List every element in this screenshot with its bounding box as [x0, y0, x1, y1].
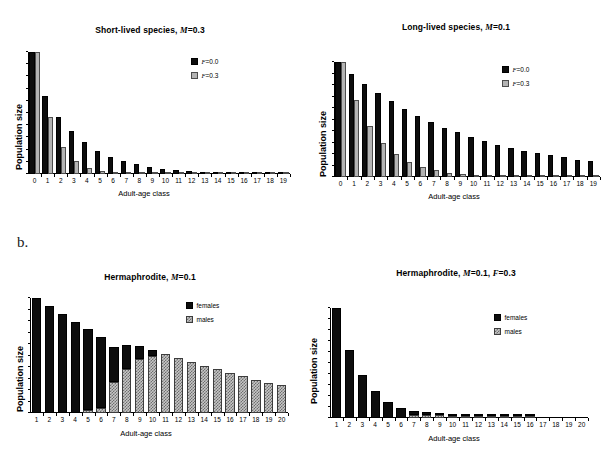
x-tick-label: 4: [80, 177, 93, 184]
bar-pair: [41, 52, 54, 174]
x-tick-label: 15: [211, 416, 224, 423]
x-tick-label: 14: [520, 180, 533, 187]
x-tick-label: 15: [533, 180, 546, 187]
stacked-bar: [135, 298, 144, 413]
bar-segment-females: [58, 314, 67, 413]
bar-segment-females: [135, 346, 144, 359]
x-tick-label: 10: [467, 180, 480, 187]
x-tick-label: 20: [575, 421, 588, 428]
bar-pair: [133, 52, 146, 174]
legend-swatch-hatch: [494, 328, 501, 335]
bar-pair: [334, 62, 347, 177]
x-axis-label: Adult-age class: [302, 192, 606, 201]
stacked-bar: [474, 308, 483, 418]
bar-f03: [540, 175, 545, 177]
stacked-bar: [564, 308, 573, 418]
x-tick-label: 1: [330, 421, 343, 428]
bar-f03: [447, 173, 452, 177]
bar-f03: [514, 175, 519, 177]
y-axis-tick: [328, 362, 331, 363]
bar-pair: [54, 52, 67, 174]
bar-segment-males: [83, 410, 92, 413]
bar-f03: [567, 175, 572, 177]
bar-f03: [553, 175, 558, 177]
bar-f03: [527, 175, 532, 177]
stacked-bar: [251, 298, 260, 413]
bar-pair: [264, 52, 277, 174]
bar-pair: [93, 52, 106, 174]
x-tick-label: 10: [446, 421, 459, 428]
y-axis-tick: [328, 329, 331, 330]
legend-label-text: =0.3: [205, 72, 218, 79]
bar-f00: [548, 155, 553, 177]
bar-f03: [139, 172, 144, 174]
chart-legend: femalesmales: [186, 302, 219, 330]
bar-segment-females: [122, 345, 131, 369]
x-tick-label: 10: [146, 416, 159, 423]
bar-f00: [495, 145, 500, 177]
bar-slot: [237, 298, 250, 413]
legend-label-text: =0.3: [516, 80, 529, 87]
x-axis-label: Adult-age class: [0, 189, 294, 198]
x-tick-label: 4: [69, 416, 82, 423]
bar-slot: [361, 62, 374, 177]
y-axis-tick: [26, 161, 29, 162]
y-axis-tick: [28, 332, 31, 333]
stacked-bar: [448, 308, 457, 418]
bar-segment-males: [277, 385, 286, 413]
bar-f03: [367, 126, 372, 177]
y-axis-tick: [28, 378, 31, 379]
bar-slot: [400, 62, 413, 177]
bar-slot: [54, 52, 67, 174]
bar-f03: [580, 175, 585, 177]
y-axis-tick: [26, 88, 29, 89]
bar-slot: [80, 52, 93, 174]
x-tick-label: 16: [524, 421, 537, 428]
bar-f03: [460, 174, 465, 177]
legend-item: F=0.0: [502, 66, 529, 73]
x-tick-label: 19: [277, 177, 290, 184]
bar-slot: [172, 298, 185, 413]
bar-pair: [427, 62, 440, 177]
x-tick-label: 18: [549, 421, 562, 428]
bar-slot: [67, 52, 80, 174]
chart-title: Short-lived species, M=0.3: [0, 25, 300, 35]
x-tick-label: 12: [494, 180, 507, 187]
stacked-bar: [148, 298, 157, 413]
chart-legend: femalesmales: [494, 314, 527, 342]
x-tick-label: 18: [573, 180, 586, 187]
bar-f03: [270, 172, 275, 174]
stacked-bar: [435, 308, 444, 418]
x-tick-label: 7: [407, 421, 420, 428]
y-axis-tick: [328, 417, 331, 418]
y-axis-tick: [26, 100, 29, 101]
x-axis-tick: [290, 174, 291, 177]
y-axis-tick: [28, 389, 31, 390]
x-tick-label: 11: [159, 416, 172, 423]
y-axis-tick: [28, 401, 31, 402]
bar-f03: [74, 161, 79, 174]
bar-segment-males: [474, 416, 483, 418]
bar-segment-males: [213, 369, 222, 413]
y-axis-tick: [26, 124, 29, 125]
bar-f03: [205, 172, 210, 174]
plot-area: [330, 308, 588, 418]
x-tick-label: 15: [224, 177, 237, 184]
bar-slot: [562, 308, 575, 418]
stacked-bar: [396, 308, 405, 418]
x-axis-label: Adult-age class: [302, 434, 606, 443]
legend-item: F=0.3: [502, 80, 529, 87]
bar-segment-males: [96, 408, 105, 413]
bar-segment-males: [264, 383, 273, 413]
legend-swatch-black: [494, 314, 501, 321]
bar-slot: [573, 62, 586, 177]
bar-slot: [275, 298, 288, 413]
bar-pair: [80, 52, 93, 174]
x-tick-label: 2: [361, 180, 374, 187]
stacked-bar: [345, 308, 354, 418]
bar-segment-females: [332, 308, 341, 418]
bar-f03: [218, 172, 223, 174]
bar-segment-females: [83, 329, 92, 410]
chart-short-lived: Short-lived species, M=0.3 Population si…: [0, 22, 300, 217]
bar-slot: [382, 308, 395, 418]
